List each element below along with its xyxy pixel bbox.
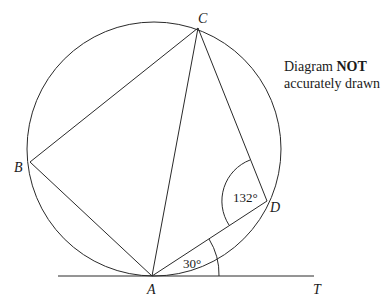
label-T: T: [313, 282, 322, 297]
circle: [27, 22, 281, 276]
angle-label-30: 30°: [183, 256, 201, 271]
angle-label-132: 132°: [233, 190, 258, 205]
disclaimer-line-2: accurately drawn: [284, 75, 380, 92]
diagram-disclaimer: Diagram NOT accurately drawn: [284, 58, 380, 92]
label-D: D: [269, 200, 280, 215]
segment-CA: [152, 28, 198, 276]
disclaimer-line-1: Diagram NOT: [284, 58, 380, 75]
disclaimer-prefix: Diagram: [284, 59, 336, 74]
label-B: B: [14, 160, 23, 175]
segment-CD: [198, 28, 267, 201]
label-C: C: [198, 11, 208, 26]
disclaimer-not-bold: NOT: [336, 59, 366, 74]
angle-arc-DAT: [209, 239, 219, 276]
segment-DA: [152, 201, 267, 276]
label-A: A: [146, 282, 156, 297]
circle-theorem-diagram: C B D A T 132° 30°: [0, 0, 382, 301]
segment-BC: [30, 28, 198, 162]
